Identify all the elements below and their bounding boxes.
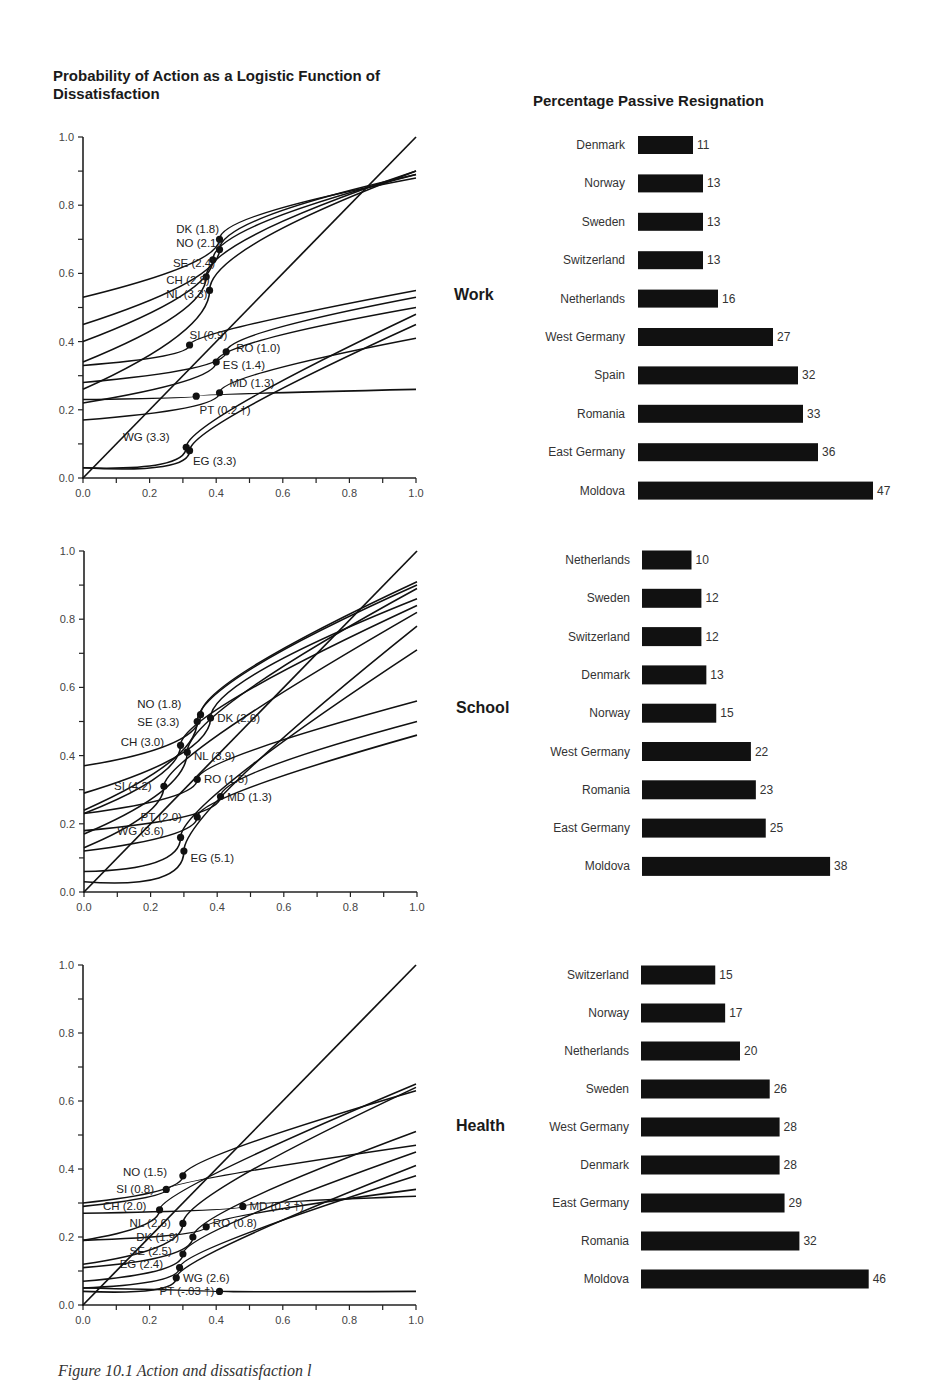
bar — [641, 1232, 799, 1251]
bar-category-label: Moldova — [584, 1272, 630, 1286]
bar — [641, 966, 715, 985]
health-resignation-bar-chart: HealthSwitzerland15Norway17Netherlands20… — [0, 0, 936, 1340]
bar-value-label: 20 — [744, 1044, 758, 1058]
bar-category-label: Denmark — [580, 1158, 630, 1172]
bar-value-label: 46 — [873, 1272, 887, 1286]
section-label: Health — [456, 1117, 505, 1134]
bar — [641, 1156, 780, 1175]
bar — [641, 1270, 869, 1289]
bar-value-label: 28 — [784, 1120, 798, 1134]
bar-category-label: Sweden — [586, 1082, 629, 1096]
bar-value-label: 17 — [729, 1006, 743, 1020]
bar-category-label: Romania — [581, 1234, 629, 1248]
bar-value-label: 26 — [774, 1082, 788, 1096]
figure-caption: Figure 10.1 Action and dissatisfaction l — [58, 1362, 311, 1380]
bar-value-label: 32 — [803, 1234, 817, 1248]
bar-value-label: 29 — [789, 1196, 803, 1210]
bar-category-label: East Germany — [552, 1196, 629, 1210]
bar — [641, 1194, 785, 1213]
bar-value-label: 28 — [784, 1158, 798, 1172]
bar — [641, 1004, 725, 1023]
bar — [641, 1080, 770, 1099]
bar-category-label: Switzerland — [567, 968, 629, 982]
bar-value-label: 15 — [719, 968, 733, 982]
bar-category-label: Netherlands — [564, 1044, 629, 1058]
bar — [641, 1042, 740, 1061]
bar-category-label: Norway — [588, 1006, 629, 1020]
bar — [641, 1118, 780, 1137]
bar-category-label: West Germany — [549, 1120, 629, 1134]
